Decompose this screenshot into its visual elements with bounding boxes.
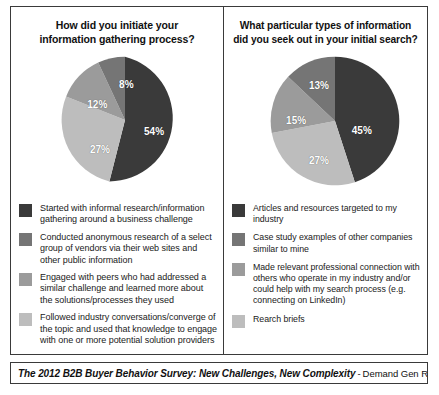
legend-swatch-icon [232,263,245,276]
pie-chart-right: 45% 27% 15% 13% [268,54,402,188]
legend-swatch-icon [19,233,32,246]
chart-left-title-line1: How did you initiate your [19,19,215,33]
pie-right-graphic [268,54,402,188]
legend-swatch-icon [19,273,32,286]
infographic-page: How did you initiate your information ga… [0,0,439,395]
legend-item: Conducted anonymous research of a select… [19,232,217,266]
footer-separator: - [355,368,362,379]
legend-item-label: Conducted anonymous research of a select… [40,232,217,266]
chart-panel-left: How did you initiate your information ga… [11,7,223,354]
chart-panel-right: What particular types of information did… [223,7,427,354]
chart-right-title: What particular types of information did… [232,19,419,46]
source-footer: The 2012 B2B Buyer Behavior Survey: New … [10,362,428,384]
legend-swatch-icon [19,204,32,217]
legend-swatch-icon [232,233,245,246]
legend-item-label: Engaged with peers who had addressed a s… [40,272,217,306]
footer-report-title: The 2012 B2B Buyer Behavior Survey: New … [18,368,355,379]
legend-item: Articles and resources targeted to my in… [232,203,421,225]
chart-right-title-line2: did you seek out in your initial search? [232,33,419,47]
legend-item-label: Case study examples of other companies s… [253,232,421,254]
chart-left-title-line2: information gathering process? [19,33,215,47]
pie-left-graphic [59,54,191,186]
chart-left-legend: Started with informal research/informati… [19,203,217,352]
legend-item-label: Made relevant professional connection wi… [253,262,421,307]
legend-item: Made relevant professional connection wi… [232,262,421,307]
legend-item-label: Rearch briefs [253,314,305,325]
chart-left-title: How did you initiate your information ga… [19,19,215,46]
footer-source-name: Demand Gen Report [363,368,428,379]
legend-item-label: Articles and resources targeted to my in… [253,203,421,225]
charts-frame: How did you initiate your information ga… [10,6,428,355]
legend-swatch-icon [19,313,32,326]
legend-item-label: Followed industry conversations/converge… [40,312,217,346]
legend-swatch-icon [232,204,245,217]
legend-item: Started with informal research/informati… [19,203,217,226]
legend-item: Case study examples of other companies s… [232,232,421,254]
legend-swatch-icon [232,315,245,328]
pie-chart-left: 54% 27% 12% 8% [59,54,191,186]
legend-item: Rearch briefs [232,314,421,328]
chart-right-legend: Articles and resources targeted to my in… [232,203,421,335]
legend-item: Followed industry conversations/converge… [19,312,217,346]
charts-panels: How did you initiate your information ga… [11,7,427,354]
legend-item: Engaged with peers who had addressed a s… [19,272,217,306]
legend-item-label: Started with informal research/informati… [40,203,217,226]
chart-right-title-line1: What particular types of information [232,19,419,33]
